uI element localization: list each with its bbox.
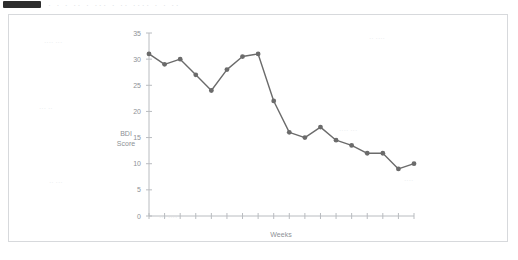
y-tick-label: 10 — [133, 160, 141, 167]
y-tick-label: 5 — [137, 186, 141, 193]
figure-panel: ···· ····· ······· ······ ····· ········… — [8, 14, 508, 242]
background-ghost-text: ···· ····· ······· ······ ····· ········… — [39, 35, 413, 221]
data-point — [209, 88, 214, 93]
ghost-text-5: ···· — [404, 177, 413, 184]
data-point — [412, 161, 417, 166]
data-point — [256, 52, 261, 57]
chart-svg: ···· ····· ······· ······ ····· ········… — [9, 15, 509, 243]
header-caption-text: · · · ·· · ··· · ·· ···· · · ·· — [48, 0, 488, 11]
data-point — [225, 67, 230, 72]
y-tick-label: 0 — [137, 213, 141, 220]
data-point — [147, 52, 152, 57]
data-point — [334, 138, 339, 143]
y-tick-label: 25 — [133, 82, 141, 89]
redacted-block-icon — [3, 1, 41, 8]
y-tick-label: 30 — [133, 56, 141, 63]
data-point — [178, 57, 183, 62]
y-axis-title-line2: Score — [117, 140, 135, 147]
page-header-strip: · · · ·· · ··· · ·· ···· · · ·· — [0, 0, 518, 13]
x-axis-title: Weeks — [270, 231, 292, 238]
data-point — [302, 135, 307, 140]
data-point — [240, 54, 245, 59]
ghost-text-6: ··· ···· — [159, 214, 177, 221]
data-series-line — [149, 54, 414, 169]
data-point — [271, 99, 276, 104]
data-point — [287, 130, 292, 135]
ghost-text-3: ···· ··· — [339, 127, 357, 134]
ghost-text-1: ·· ···· — [369, 35, 385, 42]
ghost-text-4: ·· ··· — [49, 179, 63, 186]
data-point — [318, 125, 323, 130]
data-point — [193, 72, 198, 77]
y-tick-label: 20 — [133, 108, 141, 115]
y-axis-title-line1: BDI — [120, 130, 132, 137]
bdi-score-line-chart: ···· ····· ······· ······ ····· ········… — [9, 15, 509, 243]
data-point — [365, 151, 370, 156]
ghost-text-0: ···· ··· — [44, 39, 62, 46]
y-tick-label: 35 — [133, 30, 141, 37]
data-point — [380, 151, 385, 156]
ghost-text-2: ··· ·· — [39, 105, 53, 112]
data-point — [162, 62, 167, 67]
data-point — [349, 143, 354, 148]
data-point — [396, 167, 401, 172]
